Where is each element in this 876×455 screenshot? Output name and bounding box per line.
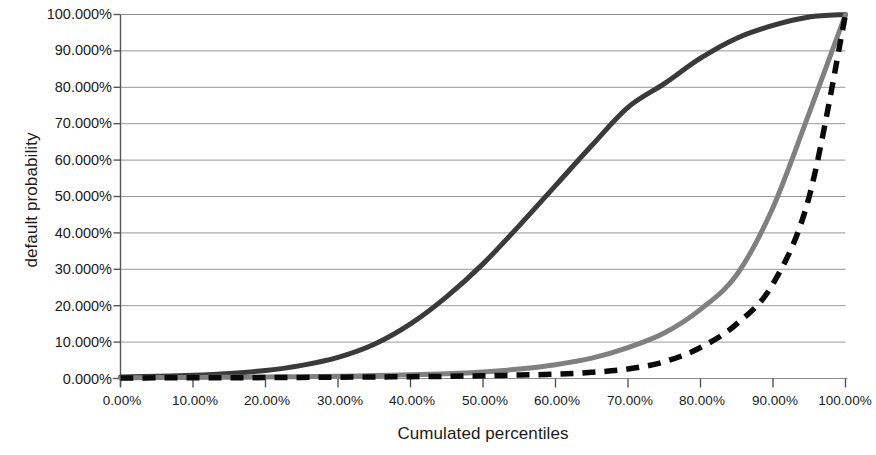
axis-lines <box>113 15 848 387</box>
axis-ticks <box>114 15 846 388</box>
gridlines <box>121 15 846 343</box>
